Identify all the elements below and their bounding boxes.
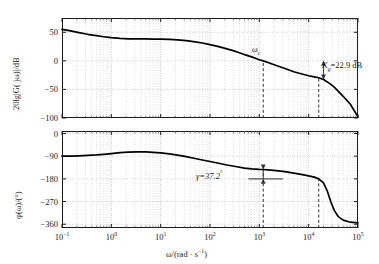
- phase-margin-annotation: γ=37.2°: [196, 170, 222, 181]
- phase-y-tick-label: −360: [16, 219, 58, 229]
- phase-y-tick-label: −180: [16, 174, 58, 184]
- phase-y-tick-label: −270: [16, 197, 58, 207]
- magnitude-y-tick-label: −100: [16, 113, 58, 123]
- omega-c-annotation: ωc: [252, 45, 260, 56]
- x-tick-label: 105: [338, 231, 378, 242]
- magnitude-y-tick-label: 50: [16, 27, 58, 37]
- bode-plot-figure: 20lg|G( jω)|/dB 500−50−100ωcKg=22.9 dB φ…: [0, 0, 379, 264]
- x-tick-label: 10−1: [42, 231, 82, 242]
- x-tick-label: 100: [91, 231, 131, 242]
- magnitude-y-tick-label: −50: [16, 84, 58, 94]
- phase-panel: φ(ω)/(°) ω/(rad · s−1) 0−90−180−270−3601…: [0, 131, 379, 264]
- magnitude-panel: 20lg|G( jω)|/dB 500−50−100ωcKg=22.9 dB: [0, 0, 379, 131]
- x-tick-label: 104: [289, 231, 329, 242]
- phase-y-tick-label: −90: [16, 151, 58, 161]
- magnitude-y-tick-label: 0: [16, 56, 58, 66]
- x-tick-label: 102: [190, 231, 230, 242]
- x-tick-label: 101: [141, 231, 181, 242]
- phase-y-tick-label: 0: [16, 129, 58, 139]
- gain-margin-annotation: Kg=22.9 dB: [322, 60, 362, 72]
- x-tick-label: 103: [239, 231, 279, 242]
- x-axis-label: ω/(rad · s−1): [166, 249, 207, 258]
